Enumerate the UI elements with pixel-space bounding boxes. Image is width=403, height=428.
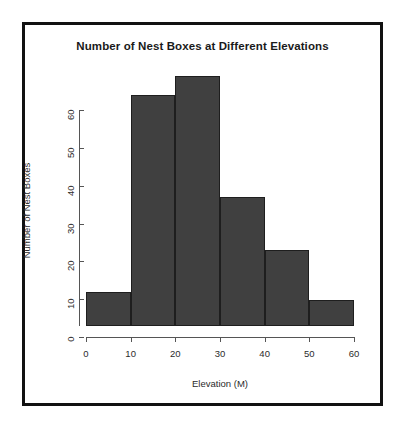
y-axis-tick (79, 261, 84, 262)
x-axis-tick-label: 60 (339, 348, 369, 359)
y-axis-title: Number of Nest Boxes (21, 151, 32, 271)
histogram-bar (265, 250, 310, 326)
histogram-bar (175, 76, 220, 326)
x-axis-tick (309, 337, 310, 342)
y-axis-line (79, 110, 80, 326)
y-axis-tick-label: 30 (65, 223, 76, 263)
y-axis-tick (79, 337, 84, 338)
x-axis-tick (86, 337, 87, 342)
x-axis-tick (265, 337, 266, 342)
y-axis-tick-label: 50 (65, 147, 76, 187)
x-axis-tick-label: 20 (160, 348, 190, 359)
chart-title: Number of Nest Boxes at Different Elevat… (30, 40, 375, 52)
histogram-bar (86, 292, 131, 326)
x-axis-title: Elevation (M) (86, 378, 354, 389)
x-axis-tick-label: 50 (294, 348, 324, 359)
y-axis-tick (79, 186, 84, 187)
histogram-bar (131, 95, 176, 326)
y-axis-tick-label: 10 (65, 299, 76, 339)
x-axis-tick-label: 10 (116, 348, 146, 359)
histogram-figure: Number of Nest Boxes at Different Elevat… (0, 0, 403, 428)
x-axis-tick-label: 40 (250, 348, 280, 359)
plot-area (86, 80, 354, 326)
x-axis-tick (354, 337, 355, 342)
y-axis-tick-label: 60 (65, 110, 76, 150)
histogram-bar (220, 197, 265, 326)
histogram-bar (309, 300, 354, 326)
chart-screenshot: Number of Nest Boxes at Different Elevat… (0, 0, 403, 428)
y-axis-tick (79, 224, 84, 225)
y-axis-tick-label: 40 (65, 185, 76, 225)
y-axis-tick (79, 148, 84, 149)
x-axis-tick-label: 0 (71, 348, 101, 359)
y-axis-tick (79, 110, 84, 111)
y-axis-tick-label: 20 (65, 261, 76, 301)
x-axis-tick (131, 337, 132, 342)
x-axis-tick (175, 337, 176, 342)
x-axis-tick-label: 30 (205, 348, 235, 359)
y-axis-tick-label: 0 (65, 337, 76, 377)
y-axis-tick (79, 299, 84, 300)
x-axis-tick (220, 337, 221, 342)
